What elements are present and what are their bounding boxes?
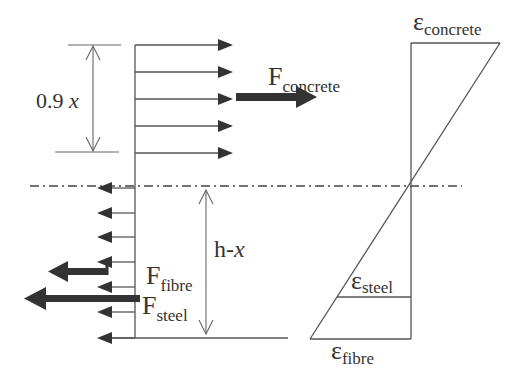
f-fibre-label: Ffibre — [146, 261, 193, 295]
tension-arrow — [97, 182, 135, 194]
compression-arrow — [135, 120, 233, 132]
compression-arrow — [135, 66, 233, 78]
tension-arrow — [97, 256, 135, 268]
stress-strain-diagram: 0.9 x h-x Fconcrete Ffibre Fsteel εconcr… — [0, 0, 527, 374]
tension-arrow — [97, 306, 135, 318]
eps-steel-label: εsteel — [351, 266, 393, 297]
f-steel-label: Fsteel — [142, 291, 188, 325]
compression-arrow — [135, 147, 233, 159]
eps-concrete-label: εconcrete — [413, 7, 482, 39]
f-concrete-label: Fconcrete — [268, 62, 340, 96]
tension-arrow — [97, 231, 135, 243]
eps-fibre-label: εfibre — [331, 336, 374, 368]
compression-arrow — [135, 93, 233, 105]
f-fibre-arrow — [48, 261, 108, 282]
f-steel-arrow — [24, 287, 140, 310]
tension-depth-label: h-x — [214, 236, 245, 262]
tension-depth-dimension — [199, 190, 213, 334]
tension-arrow — [97, 207, 135, 219]
tension-arrow — [97, 281, 135, 293]
tension-arrow — [97, 332, 135, 344]
compression-depth-label: 0.9 x — [36, 88, 79, 113]
compression-arrow — [135, 39, 233, 51]
tension-arrows — [97, 182, 135, 344]
compression-arrows — [135, 39, 233, 159]
